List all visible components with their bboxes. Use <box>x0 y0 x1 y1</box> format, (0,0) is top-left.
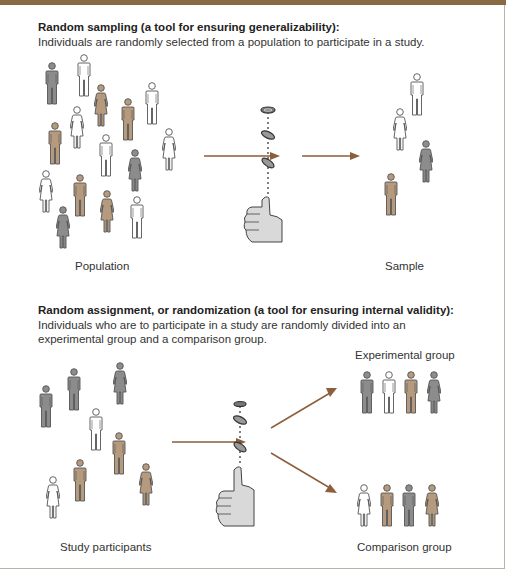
white-man-person-icon <box>89 408 103 452</box>
gray-man-person-icon <box>402 484 416 528</box>
brown-woman-person-icon <box>139 463 153 507</box>
brown-man-person-icon <box>73 174 87 218</box>
random-assignment-heading: Random assignment, or randomization (a t… <box>38 304 454 316</box>
brown-man-person-icon <box>121 98 135 142</box>
white-woman-person-icon <box>39 170 53 214</box>
gray-man-person-icon <box>39 385 53 429</box>
white-man-person-icon <box>130 196 144 240</box>
experimental-group-label: Experimental group <box>355 349 455 361</box>
arrow-right-icon <box>300 150 362 162</box>
white-woman-person-icon <box>46 476 60 520</box>
brown-woman-person-icon <box>94 84 108 128</box>
gray-man-person-icon <box>67 368 81 412</box>
study-participants-label: Study participants <box>60 541 151 553</box>
random-sampling-description: Individuals are randomly selected from a… <box>38 35 425 50</box>
white-man-person-icon <box>77 54 91 98</box>
arrow-down-right-icon <box>268 450 340 496</box>
gray-woman-person-icon <box>56 206 70 250</box>
brown-man-person-icon <box>384 173 398 217</box>
white-woman-person-icon <box>162 128 176 172</box>
coin-toss-thumb-icon <box>238 100 298 245</box>
population-label: Population <box>75 260 129 272</box>
white-man-person-icon <box>99 134 113 178</box>
brown-woman-person-icon <box>100 190 114 234</box>
sample-label: Sample <box>385 260 424 272</box>
white-woman-person-icon <box>393 108 407 152</box>
gray-man-person-icon <box>360 371 374 415</box>
white-woman-person-icon <box>70 106 84 150</box>
brown-man-person-icon <box>380 484 394 528</box>
white-man-person-icon <box>410 73 424 117</box>
random-assignment-description-line2: experimental group and a comparison grou… <box>38 332 267 347</box>
white-woman-person-icon <box>357 484 371 528</box>
arrow-up-right-icon <box>268 385 340 431</box>
gray-woman-person-icon <box>419 140 433 184</box>
comparison-group-label: Comparison group <box>357 541 452 553</box>
brown-man-person-icon <box>48 122 62 166</box>
gray-woman-person-icon <box>113 362 127 406</box>
gray-woman-person-icon <box>427 371 441 415</box>
brown-man-person-icon <box>73 459 87 503</box>
random-assignment-description-line1: Individuals who are to participate in a … <box>38 318 406 333</box>
white-man-person-icon <box>145 82 159 126</box>
white-man-person-icon <box>382 371 396 415</box>
gray-man-person-icon <box>45 62 59 106</box>
brown-man-person-icon <box>112 432 126 476</box>
coin-toss-thumb-icon <box>210 398 270 543</box>
brown-man-person-icon <box>404 371 418 415</box>
gray-woman-person-icon <box>128 149 142 193</box>
random-sampling-heading: Random sampling (a tool for ensuring gen… <box>38 21 340 33</box>
brown-woman-person-icon <box>425 484 439 528</box>
